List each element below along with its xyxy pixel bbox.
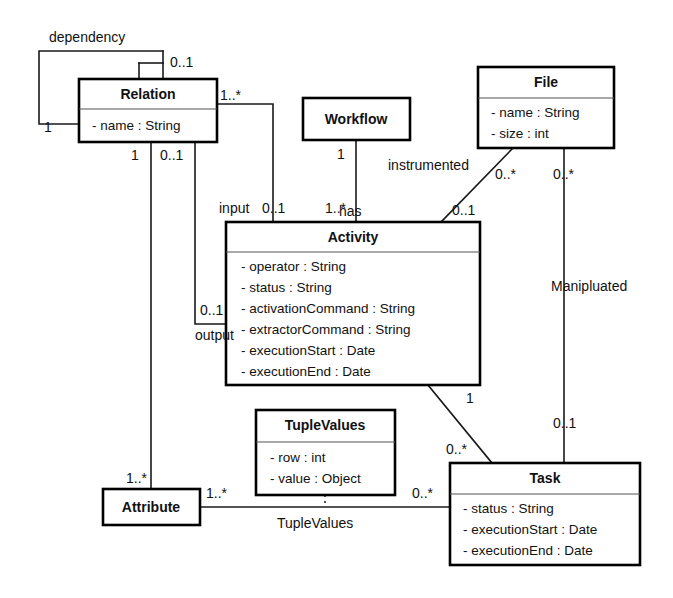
relation-title: Relation [120,86,175,102]
label-tuplevalues-assoc: TupleValues [277,515,353,531]
class-box-activity[interactable]: Activity - operator : String - status : … [226,222,480,385]
file-attribute-0: - name : String [491,105,580,120]
mult-relation-bottom-left: 1 [131,147,139,163]
mult-attribute-right: 1..* [206,485,228,501]
mult-dependency-top: 0..1 [170,54,194,70]
mult-relation-right: 1..* [220,87,242,103]
class-box-workflow[interactable]: Workflow [303,98,410,140]
mult-activity-top: 1..* [325,200,347,216]
label-manipluated: Manipluated [551,278,627,294]
activity-attribute-3: - extractorCommand : String [241,322,411,337]
activity-attribute-5: - executionEnd : Date [241,364,371,379]
label-instrumented: instrumented [388,157,469,173]
tuplevalues-attribute-1: - value : Object [270,471,361,486]
file-title: File [534,74,558,90]
activity-attribute-1: - status : String [241,280,332,295]
output-path [195,142,226,324]
task-attribute-0: - status : String [463,501,554,516]
tuplevalues-title: TupleValues [285,417,366,433]
tuplevalues-attribute-0: - row : int [270,450,326,465]
mult-file-right: 0..* [553,166,575,182]
class-box-file[interactable]: File - name : String - size : int [478,67,614,148]
mult-activity-instrumented: 0..1 [452,202,476,218]
label-output: output [195,327,234,343]
mult-workflow: 1 [337,146,345,162]
class-box-relation[interactable]: Relation - name : String [79,79,217,142]
task-title: Task [530,470,561,486]
mult-file-left: 0..* [495,166,517,182]
uml-class-diagram: Relation - name : String Workflow File -… [0,0,673,598]
file-attribute-1: - size : int [491,126,549,141]
mult-relation-bottom-right: 0..1 [160,147,184,163]
activity-attribute-2: - activationCommand : String [241,301,415,316]
label-dependency: dependency [49,29,125,45]
workflow-title: Workflow [325,111,388,127]
activity-attribute-0: - operator : String [241,259,346,274]
class-box-tuplevalues[interactable]: TupleValues - row : int - value : Object [256,410,395,495]
task-attribute-1: - executionStart : Date [463,522,597,537]
class-box-task[interactable]: Task - status : String - executionStart … [450,463,640,565]
mult-attribute-top: 1..* [126,470,148,486]
mult-task-file: 0..1 [553,415,577,431]
mult-output: 0..1 [200,302,224,318]
mult-input: 0..1 [262,200,286,216]
attribute-title: Attribute [122,499,181,515]
mult-activity-task: 1 [466,390,474,406]
label-input: input [219,200,249,216]
relation-attribute-0: - name : String [92,118,181,133]
task-attribute-2: - executionEnd : Date [463,543,593,558]
class-box-attribute[interactable]: Attribute [103,489,200,525]
association-relation-activity-output[interactable] [195,142,226,324]
mult-task-left: 0..* [412,485,434,501]
mult-dependency-left: 1 [44,119,52,135]
diagram-canvas: Relation - name : String Workflow File -… [0,0,673,598]
activity-attribute-4: - executionStart : Date [241,343,375,358]
activity-title: Activity [328,229,379,245]
mult-task-activity: 0..* [446,441,468,457]
